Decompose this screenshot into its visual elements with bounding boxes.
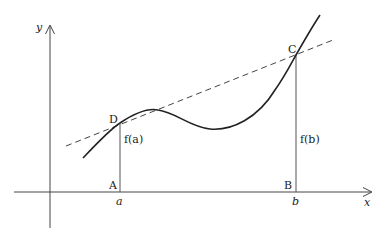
tick-a-label: a [116, 195, 123, 208]
x-axis-label: x [364, 196, 371, 209]
tick-b-label: b [292, 195, 299, 208]
x-axis [14, 188, 372, 197]
mean-value-diagram: y x D C A B a b f(a) f(b) [0, 0, 380, 240]
height-fb-label: f(b) [300, 133, 320, 146]
point-b-label: B [284, 179, 292, 192]
point-a-label: A [108, 179, 118, 192]
y-axis [46, 25, 55, 228]
height-fa-label: f(a) [124, 133, 143, 146]
y-axis-label: y [35, 21, 43, 34]
point-c-label: C [288, 43, 296, 56]
point-d-label: D [109, 113, 118, 126]
function-curve [83, 15, 320, 158]
